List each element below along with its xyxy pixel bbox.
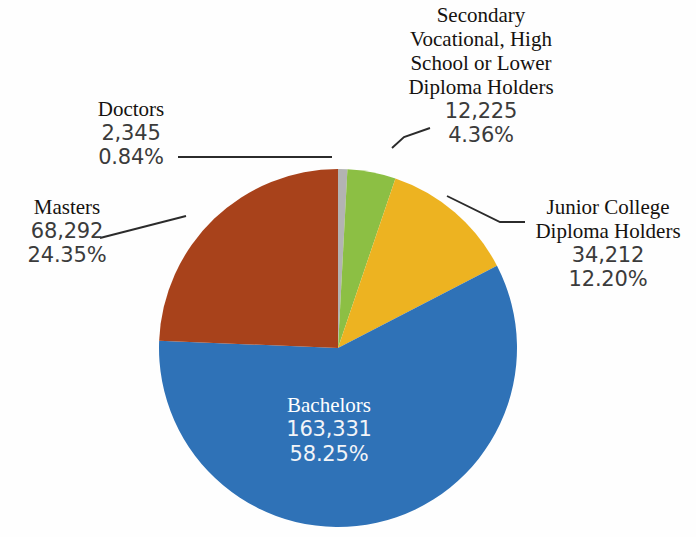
- callout-secondary-name-line4: Diploma Holders: [383, 76, 579, 100]
- callout-masters-value: 68,292: [0, 220, 134, 244]
- callout-junior-value: 34,212: [522, 244, 694, 268]
- callout-secondary-vocational: Secondary Vocational, High School or Low…: [383, 4, 579, 148]
- slice-label-bachelors-value: 163,331: [233, 417, 425, 441]
- callout-junior-percent: 12.20%: [522, 268, 694, 292]
- callout-secondary-value: 12,225: [383, 100, 579, 124]
- callout-secondary-name-line3: School or Lower: [383, 52, 579, 76]
- callout-junior-name-line2: Diploma Holders: [522, 220, 694, 244]
- callout-secondary-name-line2: Vocational, High: [383, 28, 579, 52]
- slice-label-bachelors-name: Bachelors: [233, 393, 425, 417]
- slice-label-bachelors-percent: 58.25%: [233, 442, 425, 466]
- callout-masters: Masters 68,292 24.35%: [0, 196, 134, 268]
- callout-secondary-percent: 4.36%: [383, 124, 579, 148]
- pie-chart-figure: Secondary Vocational, High School or Low…: [0, 0, 696, 537]
- callout-masters-percent: 24.35%: [0, 244, 134, 268]
- pie-slice-masters[interactable]: [159, 169, 338, 348]
- callout-masters-name: Masters: [0, 196, 134, 220]
- callout-junior-name-line1: Junior College: [522, 196, 694, 220]
- callout-doctors-percent: 0.84%: [62, 146, 200, 170]
- callout-doctors-value: 2,345: [62, 122, 200, 146]
- callout-junior-college: Junior College Diploma Holders 34,212 12…: [522, 196, 694, 292]
- pie-slices: [159, 169, 517, 527]
- callout-doctors-name: Doctors: [62, 98, 200, 122]
- callout-doctors: Doctors 2,345 0.84%: [62, 98, 200, 170]
- slice-label-bachelors: Bachelors 163,331 58.25%: [233, 393, 425, 466]
- callout-secondary-name-line1: Secondary: [383, 4, 579, 28]
